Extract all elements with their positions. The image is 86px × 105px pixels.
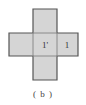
face-label-right: 1 bbox=[65, 40, 70, 50]
face-label-center: 1' bbox=[42, 40, 49, 50]
figure-caption: ( b ) bbox=[0, 89, 86, 99]
